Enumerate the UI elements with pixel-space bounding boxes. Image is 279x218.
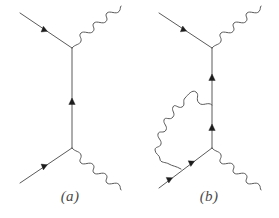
panel-a-diagram (20, 6, 121, 190)
panel-b-arrow-propagator-upper (209, 74, 215, 81)
panel-b-photon-loop (155, 91, 212, 169)
panel-a-outgoing-photon-lower (72, 148, 121, 190)
panel-a-arrow-incoming-upper (41, 26, 47, 32)
panel-a-outgoing-photon-upper (72, 6, 121, 48)
panel-a-caption: (a) (0, 188, 140, 205)
panel-b-diagram (155, 6, 261, 190)
panel-b-outgoing-photon-upper (212, 6, 261, 48)
panel-b-incoming-fermion-lower (159, 148, 212, 188)
panel-a-arrow-incoming-lower (41, 164, 47, 170)
panel-a-arrow-propagator (69, 98, 75, 105)
panel-b-arrow-propagator-lower (209, 124, 215, 131)
feynman-figure: (a) (b) (0, 0, 279, 218)
panel-b-caption: (b) (139, 188, 279, 205)
panel-b-arrow-incoming-upper (180, 26, 186, 32)
panel-b-outgoing-photon-lower (212, 148, 261, 190)
feynman-diagram-canvas (0, 0, 279, 218)
